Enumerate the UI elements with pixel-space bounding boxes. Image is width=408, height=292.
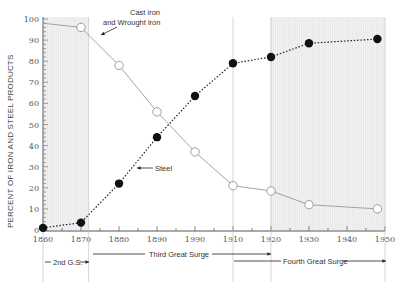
- cast-iron-point: [229, 181, 237, 189]
- steel-point: [115, 179, 123, 187]
- steel-arrow-head: [137, 166, 141, 169]
- steel-point: [39, 224, 47, 232]
- steel-point: [267, 53, 275, 61]
- cast-iron-point: [153, 108, 161, 116]
- wrought-iron-label: and Wrought iron: [103, 18, 160, 27]
- x-tick-label: 1880: [109, 235, 129, 244]
- steel-point: [373, 35, 381, 43]
- y-tick-label: 40: [29, 142, 39, 151]
- third-great-surge-label: Third Great Surge: [149, 250, 209, 259]
- y-tick-label: 50: [29, 121, 39, 130]
- y-axis-label: PERCENT OF IRON AND STEEL PRODUCTS: [6, 55, 15, 229]
- y-tick-label: 30: [29, 163, 39, 172]
- x-tick-label: 1870: [71, 235, 91, 244]
- y-tick-label: 80: [29, 57, 39, 66]
- y-tick-label: 60: [29, 99, 39, 108]
- shaded-surge-regions: [43, 17, 385, 230]
- cast-iron-point: [373, 205, 381, 213]
- x-tick-label: 1890: [147, 235, 167, 244]
- steel-label: Steel: [155, 164, 172, 173]
- second-great-surge-label: 2nd G.S.: [53, 258, 83, 267]
- cast-iron-point: [77, 23, 85, 31]
- y-tick-label: 10: [29, 205, 39, 214]
- cast-iron-label: Cast iron: [130, 8, 160, 17]
- steel-point: [77, 218, 85, 226]
- surge3-arrow-head: [267, 252, 271, 255]
- y-tick-label: 0: [34, 226, 39, 235]
- x-tick-label: 1990: [185, 235, 205, 244]
- fourth-great-surge-label: Fourth Great Surge: [283, 257, 348, 266]
- y-tick-label: 100: [24, 15, 39, 24]
- cast-iron-point: [267, 187, 275, 195]
- y-tick-label: 20: [29, 184, 39, 193]
- y-tick-label: 90: [29, 36, 39, 45]
- cast-iron-point: [305, 200, 313, 208]
- x-tick-label: 1940: [337, 235, 357, 244]
- cast-iron-point: [115, 61, 123, 69]
- steel-point: [229, 59, 237, 67]
- y-tick-label: 70: [29, 78, 39, 87]
- surge4-arrow-head: [382, 259, 386, 262]
- x-tick-label: 1930: [299, 235, 319, 244]
- steel-vs-iron-chart: 0102030405060708090100186018701880189019…: [0, 0, 408, 292]
- cast-iron-point: [191, 148, 199, 156]
- steel-point: [153, 133, 161, 141]
- steel-point: [305, 39, 313, 47]
- steel-point: [191, 92, 199, 100]
- shaded-region: [43, 17, 89, 230]
